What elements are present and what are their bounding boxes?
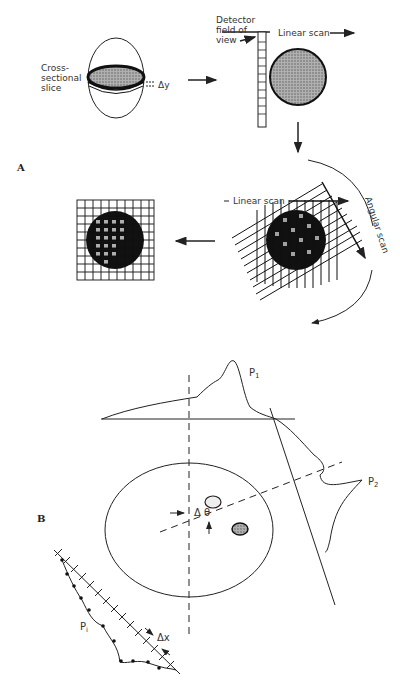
linear-scan-label-rotated: Linear scan	[233, 196, 285, 206]
delta-theta-label: Δ θ	[194, 507, 210, 518]
slice-disk	[270, 49, 326, 105]
slice-label-1: Cross-	[41, 63, 69, 73]
p2-profile-curve	[276, 419, 362, 552]
panel-a: Cross- sectional slice Δy Detector field…	[16, 15, 391, 323]
detector-pointer-arrow	[240, 37, 255, 41]
delta-x-label: Δx	[157, 632, 170, 643]
panel-b: P1 P2 Δ θ	[37, 361, 379, 674]
reconstructed-image-grid	[77, 200, 154, 280]
panel-label-b: B	[37, 513, 45, 524]
linear-scan-label-top: Linear scan	[278, 28, 330, 38]
detector-label-3: view	[216, 35, 237, 45]
p1-label: P1	[249, 367, 260, 380]
lesion-dense	[232, 523, 248, 535]
ct-scan-diagram: Cross- sectional slice Δy Detector field…	[0, 0, 400, 687]
slice-label-3: slice	[41, 83, 62, 93]
angular-scan-label: Angular scan	[363, 196, 391, 255]
detector-array	[222, 32, 270, 127]
pi-sampled-profile	[54, 549, 180, 674]
p2-baseline	[270, 408, 335, 605]
delta-y-label: Δy	[158, 80, 170, 90]
detector-label-2: field of	[216, 25, 248, 35]
panel-label-a: A	[16, 162, 25, 173]
object-with-slice	[88, 38, 155, 118]
slice-label-2: sectional	[41, 73, 81, 83]
p2-label: P2	[368, 476, 379, 489]
detector-label-1: Detector	[216, 15, 256, 25]
pi-label: Pi	[80, 621, 88, 634]
rotated-dashed-axis	[160, 462, 342, 532]
